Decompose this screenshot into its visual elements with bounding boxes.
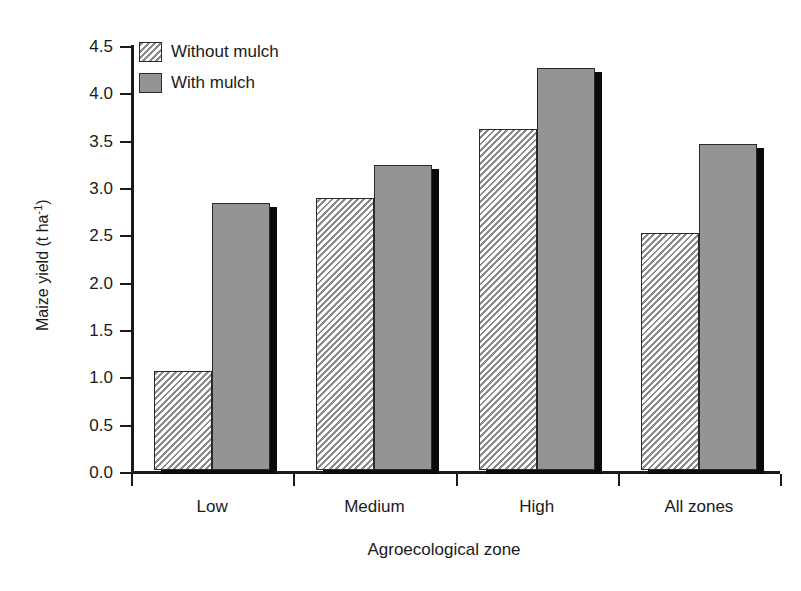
x-axis-tick <box>131 474 133 486</box>
y-axis-tick-label: 3.0 <box>53 179 113 199</box>
legend-swatch-hatched-icon <box>139 42 162 62</box>
y-axis-tick-label: 2.5 <box>53 226 113 246</box>
bar-medium-without-mulch <box>316 198 374 470</box>
y-axis-tick-label: 4.5 <box>53 37 113 57</box>
bar-low-with-mulch <box>212 203 270 470</box>
y-axis-tick-label: 1.0 <box>53 368 113 388</box>
bar-high-with-mulch <box>537 68 595 470</box>
bar-all-zones-without-mulch <box>641 233 699 470</box>
y-axis-title-text: Maize yield (t ha <box>34 214 51 331</box>
plot-area: 0.00.51.01.52.02.53.03.54.04.5LowMediumH… <box>131 45 780 473</box>
y-axis-tick <box>120 188 131 190</box>
y-axis-tick-label: 0.0 <box>53 463 113 483</box>
x-axis-tick <box>618 474 620 486</box>
y-axis-tick-label: 0.5 <box>53 416 113 436</box>
bar-low-without-mulch <box>154 371 212 470</box>
y-axis-title-exponent: -1 <box>32 205 44 215</box>
x-axis-category-label: Low <box>197 497 228 517</box>
y-axis-tick-label: 1.5 <box>53 321 113 341</box>
y-axis-tick <box>120 283 131 285</box>
y-axis-title: Maize yield (t ha-1) <box>32 155 52 375</box>
x-axis-category-label: High <box>519 497 554 517</box>
y-axis-title-tail: ) <box>34 199 51 204</box>
bar-medium-with-mulch <box>374 165 432 470</box>
y-axis-tick-label: 2.0 <box>53 274 113 294</box>
y-axis-tick <box>120 46 131 48</box>
chart-figure: Maize yield (t ha-1) Agroecological zone… <box>0 0 801 591</box>
legend-item-without-mulch: Without mulch <box>139 42 279 62</box>
x-axis-tick <box>780 474 782 486</box>
legend-label-with-mulch: With mulch <box>171 73 255 93</box>
y-axis-line <box>131 45 134 474</box>
legend-item-with-mulch: With mulch <box>139 73 279 93</box>
x-axis-tick <box>456 474 458 486</box>
legend-swatch-solid-icon <box>139 73 162 93</box>
y-axis-tick <box>120 93 131 95</box>
x-axis-category-label: Medium <box>344 497 404 517</box>
bar-high-without-mulch <box>479 129 537 470</box>
x-axis-tick <box>293 474 295 486</box>
bar-all-zones-with-mulch <box>699 144 757 470</box>
y-axis-tick <box>120 425 131 427</box>
y-axis-tick <box>120 472 131 474</box>
y-axis-tick <box>120 330 131 332</box>
y-axis-tick <box>120 377 131 379</box>
y-axis-tick <box>120 141 131 143</box>
y-axis-tick-label: 4.0 <box>53 84 113 104</box>
legend-label-without-mulch: Without mulch <box>171 42 279 62</box>
x-axis-category-label: All zones <box>664 497 733 517</box>
y-axis-tick-label: 3.5 <box>53 132 113 152</box>
legend: Without mulch With mulch <box>139 42 279 104</box>
y-axis-tick <box>120 235 131 237</box>
x-axis-title: Agroecological zone <box>108 540 780 560</box>
